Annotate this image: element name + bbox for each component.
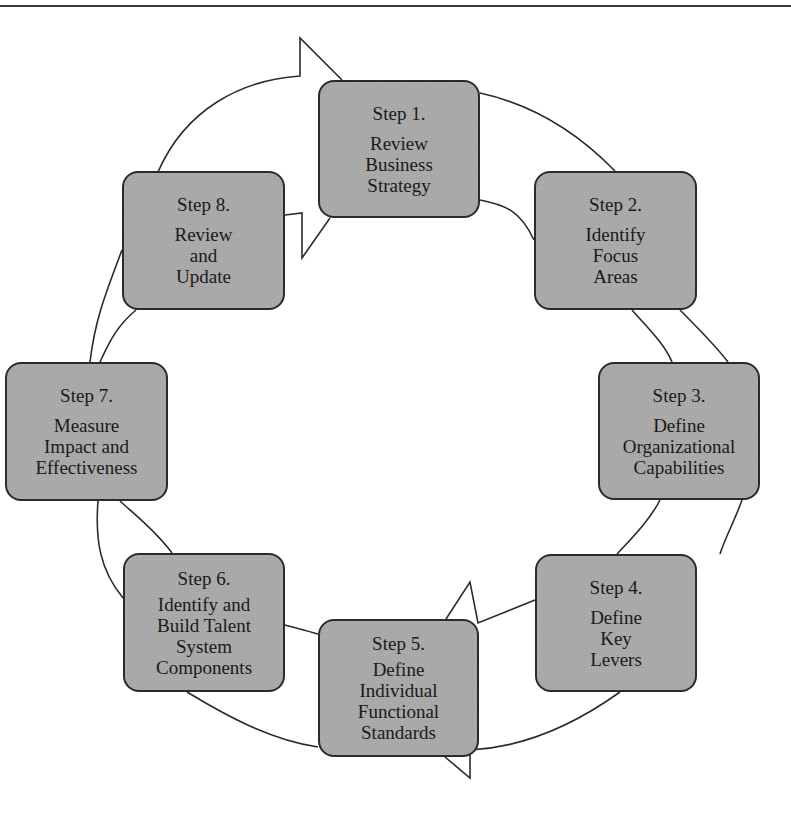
step-4-box: Step 4. Define Key Levers (535, 554, 697, 692)
step-8-label: Review and Update (174, 224, 232, 287)
arrow-8-to-1-outer (158, 38, 342, 172)
connector-6-7-inner (120, 501, 172, 553)
connector-7-8-inner (100, 310, 136, 362)
step-8-box: Step 8. Review and Update (122, 171, 285, 310)
step-1-number: Step 1. (373, 103, 426, 125)
step-6-line: System (156, 636, 252, 657)
step-7-line: Impact and (36, 436, 138, 457)
connector-2-3-outer (680, 310, 728, 362)
step-1-box: Step 1. Review Business Strategy (318, 80, 480, 218)
step-8-line: and (174, 245, 232, 266)
step-1-label: Review Business Strategy (365, 133, 433, 196)
step-8-line: Review (174, 224, 232, 245)
step-3-box: Step 3. Define Organizational Capabiliti… (598, 362, 760, 500)
step-3-label: Define Organizational Capabilities (623, 415, 736, 478)
connector-1-2-outer (480, 93, 615, 171)
step-2-line: Identify (585, 224, 645, 245)
step-2-line: Focus (585, 245, 645, 266)
step-4-line: Key (590, 628, 642, 649)
step-4-line: Define (590, 607, 642, 628)
step-3-line: Define (623, 415, 736, 436)
step-5-line: Individual (358, 680, 439, 701)
step-2-box: Step 2. Identify Focus Areas (534, 171, 697, 310)
connector-6-7-outer (97, 501, 123, 598)
step-6-line: Build Talent (156, 615, 252, 636)
step-6-box: Step 6. Identify and Build Talent System… (123, 553, 285, 692)
step-7-number: Step 7. (60, 385, 113, 407)
connector-3-4-outer (720, 500, 742, 554)
step-6-label: Identify and Build Talent System Compone… (156, 594, 252, 678)
step-5-line: Standards (358, 722, 439, 743)
connector-1-2-inner (480, 200, 534, 240)
step-6-line: Identify and (156, 594, 252, 615)
step-1-line: Review (365, 133, 433, 154)
connector-2-3-inner (632, 310, 672, 362)
step-7-box: Step 7. Measure Impact and Effectiveness (5, 362, 168, 501)
step-5-number: Step 5. (372, 633, 425, 655)
step-3-number: Step 3. (653, 385, 706, 407)
step-6-number: Step 6. (178, 568, 231, 590)
step-7-label: Measure Impact and Effectiveness (36, 415, 138, 478)
step-2-number: Step 2. (589, 194, 642, 216)
connector-7-8-outer (90, 250, 122, 362)
step-2-line: Areas (585, 266, 645, 287)
connector-3-4-inner (617, 500, 660, 554)
step-5-line: Functional (358, 701, 439, 722)
step-8-line: Update (174, 266, 232, 287)
step-7-line: Measure (36, 415, 138, 436)
arrow-4-to-5-inner (446, 582, 535, 623)
step-5-line: Define (358, 659, 439, 680)
arrow-8-to-1-inner (285, 213, 330, 258)
connector-5-6-inner (285, 625, 318, 634)
step-5-box: Step 5. Define Individual Functional Sta… (318, 619, 479, 757)
step-8-number: Step 8. (177, 194, 230, 216)
step-4-line: Levers (590, 649, 642, 670)
step-4-label: Define Key Levers (590, 607, 642, 670)
step-2-label: Identify Focus Areas (585, 224, 645, 287)
step-3-line: Capabilities (623, 457, 736, 478)
step-3-line: Organizational (623, 436, 736, 457)
step-1-line: Business (365, 154, 433, 175)
step-5-label: Define Individual Functional Standards (358, 659, 439, 743)
step-1-line: Strategy (365, 175, 433, 196)
connector-5-6-outer (187, 692, 318, 747)
step-4-number: Step 4. (590, 577, 643, 599)
step-6-line: Components (156, 657, 252, 678)
step-7-line: Effectiveness (36, 457, 138, 478)
